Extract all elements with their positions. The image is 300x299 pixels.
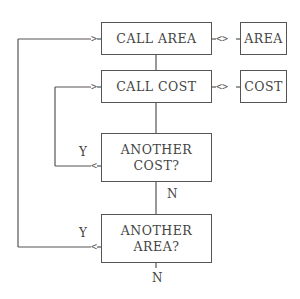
- cost-subroutine-box: COST: [240, 70, 287, 103]
- cost-yes-label: Y: [79, 146, 87, 158]
- area-subroutine-box: AREA: [240, 22, 287, 55]
- return-arrow-another-cost: <: [91, 161, 97, 171]
- cost-label: COST: [244, 79, 283, 95]
- another-area-decision-box: ANOTHER AREA?: [101, 214, 212, 263]
- bidirectional-arrow-cost: <>: [216, 82, 228, 92]
- flowchart-diagram: > > < < <> <> CALL AREA CALL COST ANOTHE…: [0, 0, 300, 299]
- call-area-label: CALL AREA: [116, 31, 196, 47]
- another-cost-decision-box: ANOTHER COST?: [101, 133, 212, 182]
- call-cost-label: CALL COST: [116, 79, 196, 95]
- area-label: AREA: [244, 31, 283, 47]
- cost-no-label: N: [167, 188, 178, 200]
- entry-arrow-call-area: >: [91, 34, 97, 44]
- area-yes-label: Y: [79, 227, 87, 239]
- another-cost-label: ANOTHER COST?: [121, 142, 193, 174]
- entry-arrow-call-cost: >: [91, 82, 97, 92]
- call-cost-box: CALL COST: [101, 70, 212, 103]
- call-area-box: CALL AREA: [101, 22, 212, 55]
- area-no-label: N: [152, 272, 163, 284]
- return-arrow-another-area: <: [91, 242, 97, 252]
- another-area-label: ANOTHER AREA?: [121, 223, 193, 255]
- bidirectional-arrow-area: <>: [216, 34, 228, 44]
